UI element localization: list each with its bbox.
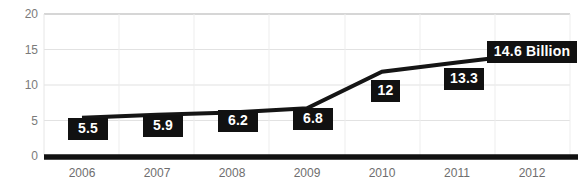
x-tick-label-2006: 2006 <box>52 167 112 180</box>
x-tick-label-2010: 2010 <box>352 167 412 180</box>
data-label-2007: 5.9 <box>143 115 183 137</box>
x-tick-label-2009: 2009 <box>277 167 337 180</box>
x-tick-label-2011: 2011 <box>427 167 487 180</box>
x-tick-label-2012: 2012 <box>502 167 562 180</box>
data-label-2011: 13.3 <box>444 68 484 90</box>
x-axis: 2006 2007 2008 2009 2010 2011 2012 <box>0 0 581 187</box>
x-tick-label-2007: 2007 <box>127 167 187 180</box>
data-label-2010: 12 <box>371 80 400 102</box>
data-label-2012: 14.6 Billion <box>487 41 577 63</box>
data-label-2009: 6.8 <box>293 108 333 130</box>
data-label-2008: 6.2 <box>218 110 258 132</box>
data-label-2006: 5.5 <box>68 118 108 140</box>
x-tick-label-2008: 2008 <box>202 167 262 180</box>
line-chart: 20 15 10 5 0 2006 2007 2008 2009 2010 20… <box>0 0 581 187</box>
